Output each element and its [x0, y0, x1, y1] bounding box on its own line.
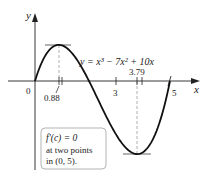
origin-label: 0 [26, 86, 31, 96]
x-axis-label: x [193, 83, 199, 95]
leader-088 [56, 86, 59, 93]
tick-label-379: 3.79 [129, 67, 145, 77]
y-axis-arrow-icon [32, 13, 38, 22]
equation-label: y = x³ − 7x² + 10x [79, 56, 155, 67]
note-line-3: in (0, 5). [46, 156, 77, 166]
tick-label-3: 3 [113, 88, 118, 98]
note-line-2: at two points [46, 145, 93, 155]
tick-label-5: 5 [172, 88, 177, 98]
note-line-1: f′(c) = 0 [46, 133, 77, 144]
graph: y x 0 0.88 3 3.79 5 y = x³ − 7x² + 10x f… [0, 0, 211, 177]
tick-label-088: 0.88 [44, 93, 60, 103]
y-axis-label: y [25, 9, 31, 21]
